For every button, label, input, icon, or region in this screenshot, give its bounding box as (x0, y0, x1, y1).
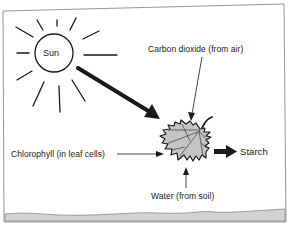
diagram-canvas (0, 0, 293, 227)
chlorophyll-arrow (117, 151, 164, 157)
leaf-icon (160, 117, 212, 161)
water-label: Water (from soil) (151, 192, 214, 201)
carbon-dioxide-label: Carbon dioxide (from air) (148, 45, 243, 54)
photosynthesis-diagram: Sun Carbon dioxide (from air) Chlorophyl… (0, 0, 293, 227)
sunlight-arrow (78, 68, 160, 119)
starch-arrow (214, 145, 237, 158)
ground-strip (5, 209, 285, 221)
sun-label: Sun (43, 49, 59, 58)
starch-label: Starch (240, 147, 268, 157)
chlorophyll-label: Chlorophyll (in leaf cells) (11, 150, 105, 159)
carbon-dioxide-arrow (188, 57, 202, 121)
sun-icon (16, 18, 117, 112)
water-arrow (183, 167, 189, 188)
